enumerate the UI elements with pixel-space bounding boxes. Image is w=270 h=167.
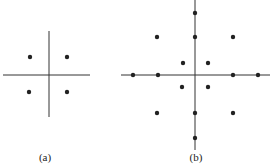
constellation-point [206, 61, 210, 65]
constellation-point [256, 73, 260, 77]
constellation-point [156, 73, 160, 77]
panel-b-label: (b) [190, 152, 203, 163]
constellation-point [193, 35, 197, 39]
constellation-point [65, 55, 69, 59]
constellation-point [180, 85, 184, 89]
panel-b [121, 0, 270, 150]
constellation-point [193, 111, 197, 115]
constellation-point [231, 35, 235, 39]
constellation-diagrams [0, 0, 270, 167]
constellation-point [65, 90, 69, 94]
panel-a [3, 31, 90, 117]
constellation-point [181, 61, 185, 65]
constellation-point [231, 73, 235, 77]
constellation-point [28, 55, 32, 59]
constellation-point [193, 136, 197, 140]
panel-a-label: (a) [39, 152, 51, 163]
constellation-point [27, 90, 31, 94]
constellation-point [231, 111, 235, 115]
constellation-point [131, 73, 135, 77]
constellation-point [206, 85, 210, 89]
constellation-point [193, 11, 197, 15]
constellation-point [155, 111, 159, 115]
constellation-point [155, 35, 159, 39]
